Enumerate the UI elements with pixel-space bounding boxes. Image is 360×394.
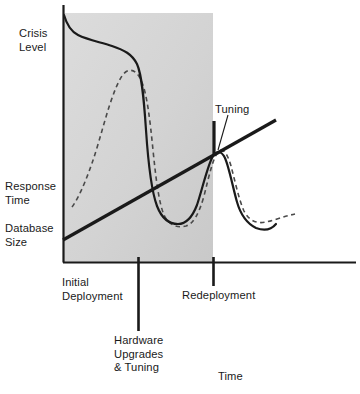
- annotation-label-tuning: Tuning: [215, 103, 249, 117]
- tick-label-initial-deployment: Initial Deployment: [62, 276, 123, 303]
- shaded-region: [64, 13, 213, 262]
- tuning-leader-line: [218, 115, 228, 150]
- axis-label-crisis-level: Crisis Level: [19, 27, 48, 54]
- axis-label-time: Time: [218, 370, 243, 384]
- axis-label-database-size: Database Size: [5, 222, 54, 249]
- tick-label-hardware-upgrades: Hardware Upgrades & Tuning: [114, 334, 163, 375]
- chart-figure: Crisis Level Response Time Database Size…: [0, 0, 360, 394]
- tick-label-redeployment: Redeployment: [182, 289, 255, 303]
- axis-label-response-time: Response Time: [5, 180, 56, 207]
